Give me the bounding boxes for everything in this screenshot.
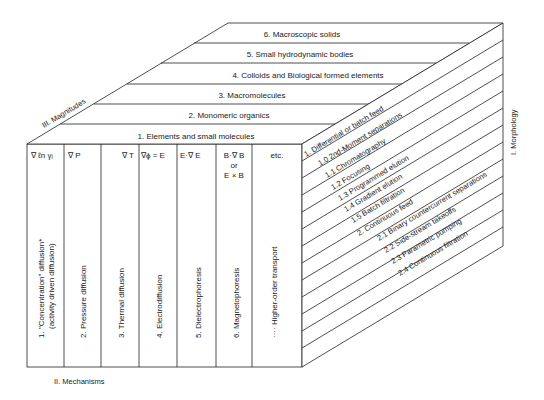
mechanism-label: (activity driven diffusion) (47, 243, 56, 329)
magnitude-label: 2. Monomeric organics (189, 111, 270, 120)
mechanism-label: 3. Thermal diffusion (117, 268, 126, 338)
gradient-symbol: ∇ ℓn γᵢ (30, 151, 53, 160)
gradient-symbol: or (230, 161, 237, 170)
mechanism-label: 2. Pressure diffusion (79, 265, 88, 338)
gradient-symbol: ∇ P (67, 151, 81, 160)
magnitude-label: 6. Macroscopic solids (264, 30, 340, 39)
axis-label-morphology: I. Morphology (509, 109, 518, 155)
front-face (27, 144, 302, 367)
gradient-symbol: B·∇ B (224, 151, 245, 160)
magnitude-label: 4. Colloids and Biological formed elemen… (232, 71, 383, 80)
gradient-symbol: E·∇ E (180, 151, 201, 160)
gradient-symbol: ∇ T (121, 151, 134, 160)
mechanism-label: 5. Dielectrophoresis (194, 267, 203, 338)
gradient-symbol: ∇ϕ = E (140, 151, 165, 160)
magnitude-label: 3. Macromolecules (218, 91, 285, 100)
gradient-symbol: E × B (224, 171, 244, 180)
mechanism-label: 4. Electrodiffusion (155, 275, 164, 338)
separation-cube-diagram: 1. Elements and small molecules 2. Monom… (0, 0, 544, 400)
mechanism-label: 6. Magnetophoresis (232, 268, 241, 338)
axis-label-mechanisms: II. Mechanisms (54, 377, 105, 386)
magnitude-label: 1. Elements and small molecules (138, 132, 255, 141)
mechanism-label: ···· Higher-order transport (270, 246, 279, 338)
magnitude-label: 5. Small hydrodynamic bodies (247, 50, 354, 59)
gradient-symbol: etc. (271, 151, 284, 160)
mechanism-label: 1. "Concentration" diffusion* (37, 239, 46, 338)
